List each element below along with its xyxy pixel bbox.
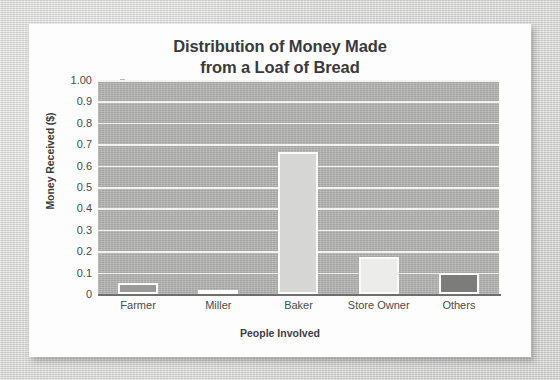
x-axis-title: People Involved: [29, 327, 531, 339]
plot-area: [98, 80, 499, 294]
y-tick-label: 0.9: [77, 95, 92, 107]
bar-group: [339, 80, 419, 294]
figure-card: Distribution of Money Made from a Loaf o…: [29, 24, 531, 357]
y-tick-label: 1.00: [71, 74, 92, 86]
y-tick-label: 0.6: [77, 160, 92, 172]
y-tick-label: 0.2: [77, 245, 92, 257]
x-tick-label: Others: [442, 299, 475, 311]
bar-group: [419, 80, 499, 294]
bar-store-owner: [359, 257, 399, 294]
x-tick-label: Farmer: [120, 299, 155, 311]
plot-wrapper: Money Received ($) 00.10.20.30.40.50.60.…: [29, 24, 531, 357]
bar-group: [98, 80, 178, 294]
y-tick-label: 0.4: [77, 202, 92, 214]
bar-group: [178, 80, 258, 294]
y-tick-label: 0.7: [77, 138, 92, 150]
y-tick-label: 0.3: [77, 224, 92, 236]
x-tick-label: Miller: [205, 299, 231, 311]
bar-farmer: [118, 283, 158, 294]
bar-others: [439, 273, 479, 294]
y-axis-tick-labels: 00.10.20.30.40.50.60.70.80.91.00: [56, 80, 92, 294]
y-tick-label: 0.1: [77, 267, 92, 279]
x-axis-tick-labels: FarmerMillerBakerStore OwnerOthers: [98, 299, 499, 319]
x-axis-line: [98, 294, 501, 296]
y-tick-label: 0: [86, 288, 92, 300]
x-tick-label: Store Owner: [348, 299, 410, 311]
x-tick-label: Baker: [284, 299, 313, 311]
y-tick-label: 0.8: [77, 117, 92, 129]
bars-layer: [98, 80, 499, 294]
y-axis-title: Money Received ($): [44, 81, 56, 241]
y-tick-label: 0.5: [77, 181, 92, 193]
bar-baker: [278, 152, 318, 294]
bar-group: [258, 80, 338, 294]
